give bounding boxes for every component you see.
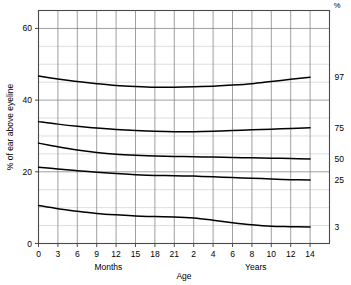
x-tick-label: 14 <box>305 249 315 259</box>
x-tick-label: 4 <box>211 249 216 259</box>
x-tick-label: 9 <box>94 249 99 259</box>
y-tick-label: 40 <box>23 95 33 105</box>
percentile-label-3: 3 <box>335 222 340 232</box>
x-tick-label: 18 <box>150 249 160 259</box>
y-tick-label: 20 <box>23 167 33 177</box>
y-tick-label: 0 <box>27 239 32 249</box>
x-tick-label: 15 <box>131 249 141 259</box>
percentile-label-75: 75 <box>335 123 345 133</box>
x-axis-group-label: Years <box>245 262 266 272</box>
x-axis-title: Age <box>176 271 191 281</box>
x-tick-label: 6 <box>230 249 235 259</box>
percentile-label-25: 25 <box>335 175 345 185</box>
y-tick-label: 60 <box>23 23 33 33</box>
percentile-label-97: 97 <box>335 72 345 82</box>
x-tick-label: 8 <box>250 249 255 259</box>
x-tick-label: 12 <box>286 249 296 259</box>
x-tick-label: 3 <box>56 249 61 259</box>
x-tick-label: 10 <box>267 249 277 259</box>
percentile-label-50: 50 <box>335 154 345 164</box>
x-axis-group-label: Months <box>94 262 122 272</box>
x-tick-label: 6 <box>75 249 80 259</box>
percent-unit-label: % <box>334 1 341 10</box>
growth-chart: 0369121518212468101214MonthsYears 020406… <box>0 0 351 285</box>
x-tick-label: 21 <box>170 249 180 259</box>
x-tick-label: 12 <box>111 249 121 259</box>
chart-background <box>0 0 351 285</box>
x-tick-label: 2 <box>191 249 196 259</box>
y-axis-title: % of ear above eyeline <box>5 83 15 170</box>
chart-canvas: 0369121518212468101214MonthsYears 020406… <box>0 0 351 285</box>
x-tick-label: 0 <box>36 249 41 259</box>
